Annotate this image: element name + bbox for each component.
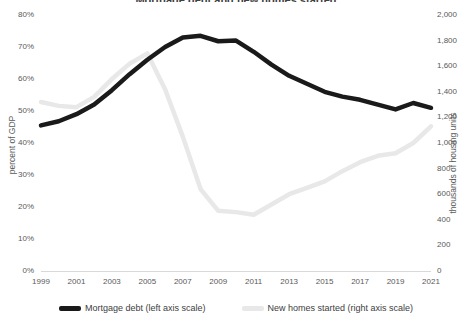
left-tick-label: 60% — [0, 75, 34, 83]
x-tick-label: 2009 — [201, 278, 235, 286]
right-tick-label: 1,600 — [437, 62, 472, 70]
x-tick-label: 2003 — [95, 278, 129, 286]
right-tick-label: 1,400 — [437, 88, 472, 96]
x-axis-line — [41, 271, 431, 272]
right-tick-label: 1,200 — [437, 113, 472, 121]
right-tick-label: 800 — [437, 165, 472, 173]
right-tick-label: 1,000 — [437, 139, 472, 147]
right-tick-label: 400 — [437, 216, 472, 224]
x-tick-label: 1999 — [24, 278, 58, 286]
x-tick-label: 2015 — [308, 278, 342, 286]
right-tick-label: 600 — [437, 190, 472, 198]
chart-legend: Mortgage debt (left axis scale)New homes… — [0, 303, 472, 313]
left-tick-label: 20% — [0, 203, 34, 211]
x-tick-label: 2005 — [130, 278, 164, 286]
legend-entry[interactable]: New homes started (right axis scale) — [242, 303, 414, 313]
x-tick-label: 2019 — [379, 278, 413, 286]
chart-container: Mortgage debt and new homes started perc… — [0, 0, 472, 323]
chart-title: Mortgage debt and new homes started — [0, 0, 472, 2]
x-tick-label: 2007 — [166, 278, 200, 286]
x-tick-label: 2011 — [237, 278, 271, 286]
left-tick-label: 50% — [0, 107, 34, 115]
left-tick-label: 80% — [0, 11, 34, 19]
legend-label: New homes started (right axis scale) — [268, 303, 414, 313]
legend-entry[interactable]: Mortgage debt (left axis scale) — [59, 303, 206, 313]
left-tick-label: 10% — [0, 235, 34, 243]
right-tick-label: 2,000 — [437, 11, 472, 19]
legend-swatch-icon — [59, 306, 81, 311]
left-tick-label: 70% — [0, 43, 34, 51]
plot-area — [41, 15, 431, 271]
legend-swatch-icon — [242, 306, 264, 311]
right-tick-label: 1,800 — [437, 37, 472, 45]
right-tick-label: 200 — [437, 241, 472, 249]
left-tick-label: 30% — [0, 171, 34, 179]
left-tick-label: 40% — [0, 139, 34, 147]
x-tick-label: 2001 — [59, 278, 93, 286]
x-tick-label: 2013 — [272, 278, 306, 286]
legend-label: Mortgage debt (left axis scale) — [85, 303, 206, 313]
x-tick-label: 2021 — [414, 278, 448, 286]
series-line-new-homes-started — [41, 53, 431, 214]
series-line-mortgage-debt — [41, 36, 431, 126]
right-tick-label: 0 — [437, 267, 472, 275]
series-canvas — [41, 15, 431, 271]
x-tick-label: 2017 — [343, 278, 377, 286]
left-tick-label: 0% — [0, 267, 34, 275]
